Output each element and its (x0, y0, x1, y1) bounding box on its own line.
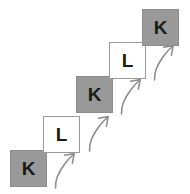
step-cell-2-l: L (43, 116, 80, 153)
step-cell-1-k: K (10, 150, 47, 187)
step-arrow-3-icon (118, 76, 146, 116)
step-cell-label: L (56, 125, 68, 144)
step-arrow-1-icon (52, 150, 80, 190)
step-cell-5-k: K (142, 9, 179, 46)
step-cell-label: L (122, 51, 134, 70)
step-cell-label: K (154, 18, 168, 37)
step-cell-4-l: L (109, 42, 146, 79)
step-cell-3-k: K (76, 76, 113, 113)
step-cell-label: K (22, 159, 36, 178)
step-arrow-2-icon (86, 113, 114, 153)
step-cell-label: K (88, 85, 102, 104)
staircase-diagram: K L K L K (0, 0, 190, 194)
step-arrow-4-icon (151, 42, 179, 82)
